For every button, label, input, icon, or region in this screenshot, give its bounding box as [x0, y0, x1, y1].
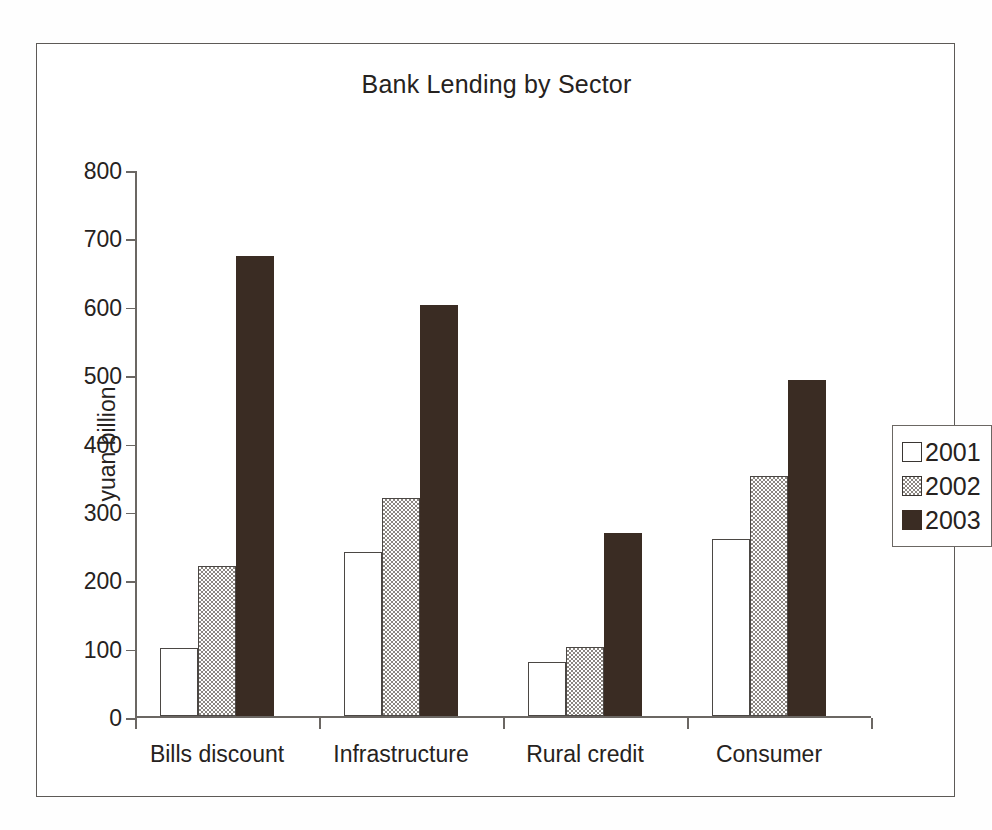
y-tick-mark: [126, 376, 135, 378]
legend-item-2003[interactable]: 2003: [902, 503, 981, 537]
x-tick-mark: [687, 718, 689, 729]
bar-2001-bills-discount: [160, 648, 198, 716]
plot-area: 0100200300400500600700800 Bills discount…: [135, 171, 871, 718]
legend-item-2002[interactable]: 2002: [902, 469, 981, 503]
y-tick-mark: [126, 445, 135, 447]
y-tick-mark: [126, 581, 135, 583]
legend-item-2001[interactable]: 2001: [902, 435, 981, 469]
y-tick-label: 200: [84, 568, 122, 595]
x-category-label-rural-credit: Rural credit: [526, 741, 644, 768]
y-tick-label: 400: [84, 431, 122, 458]
bar-2001-consumer: [712, 539, 750, 717]
y-tick-mark: [126, 513, 135, 515]
x-tick-mark: [503, 718, 505, 729]
bar-2003-rural-credit: [604, 533, 642, 716]
y-axis-line: [135, 171, 137, 718]
figure-frame: Bank Lending by Sector yuan billion 0100…: [36, 43, 955, 797]
legend-swatch-icon-2002: [902, 476, 922, 496]
x-tick-mark: [871, 718, 873, 729]
y-tick-label: 300: [84, 499, 122, 526]
bar-2002-rural-credit: [566, 647, 604, 717]
bar-2001-rural-credit: [528, 662, 566, 717]
y-tick-mark: [126, 171, 135, 173]
chart-title: Bank Lending by Sector: [37, 70, 956, 99]
y-tick-mark: [126, 718, 135, 720]
y-tick-label: 700: [84, 226, 122, 253]
y-tick-label: 800: [84, 158, 122, 185]
y-tick-mark: [126, 650, 135, 652]
y-tick-mark: [126, 239, 135, 241]
chart-legend: 2001 2002 2003: [892, 425, 992, 547]
x-category-label-consumer: Consumer: [716, 741, 822, 768]
bar-2003-consumer: [788, 380, 826, 716]
x-tick-mark: [135, 718, 137, 729]
x-category-label-infrastructure: Infrastructure: [333, 741, 469, 768]
legend-label-2001: 2001: [925, 440, 981, 465]
bar-2001-infrastructure: [344, 552, 382, 716]
legend-label-2002: 2002: [925, 474, 981, 499]
bar-2002-consumer: [750, 476, 788, 717]
x-category-label-bills-discount: Bills discount: [150, 741, 284, 768]
legend-swatch-icon-2003: [902, 510, 922, 530]
y-tick-label: 0: [109, 705, 122, 732]
x-tick-mark: [319, 718, 321, 729]
y-tick-label: 600: [84, 294, 122, 321]
bar-2003-infrastructure: [420, 305, 458, 717]
bar-2002-bills-discount: [198, 566, 236, 716]
bar-2002-infrastructure: [382, 498, 420, 717]
legend-swatch-icon-2001: [902, 442, 922, 462]
y-tick-label: 100: [84, 636, 122, 663]
y-tick-label: 500: [84, 363, 122, 390]
legend-label-2003: 2003: [925, 508, 981, 533]
y-tick-mark: [126, 308, 135, 310]
bar-2003-bills-discount: [236, 256, 274, 716]
